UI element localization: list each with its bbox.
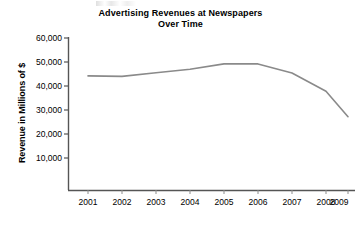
data-series-line [88,64,348,117]
plot-area [0,0,361,227]
chart-figure: Advertising Revenues at Newspapers Over … [0,0,361,227]
y-tick-marks [64,38,68,158]
